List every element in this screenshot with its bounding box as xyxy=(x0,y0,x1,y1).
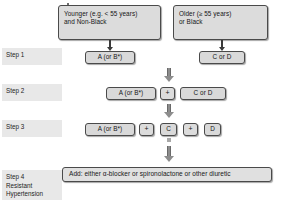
connector-step1-to-step2 xyxy=(163,68,175,82)
node-step3-c: C xyxy=(160,123,177,136)
connector-step3-to-step4 xyxy=(163,146,175,162)
node-step1-c-or-d: C or D xyxy=(199,51,245,64)
connector-step2-to-step3 xyxy=(163,104,175,118)
step-label-step3: Step 3 xyxy=(2,120,62,137)
node-step1-a: A (or B*) xyxy=(85,51,135,64)
node-step2-plus-1: + xyxy=(160,87,175,100)
connector-younger-to-step1 xyxy=(104,40,116,51)
node-step2-c-or-d: C or D xyxy=(180,87,226,100)
connector-older-to-step1 xyxy=(216,40,228,51)
anchor-dot xyxy=(67,3,69,5)
node-step2-a: A (or B*) xyxy=(106,87,156,100)
step-label-step4: Step 4 Resistant Hypertension xyxy=(2,170,62,200)
node-step3-plus-1: + xyxy=(139,123,154,136)
flowchart-canvas: Younger (e.g. < 55 years) and Non-Black … xyxy=(0,0,282,218)
step-label-step1: Step 1 xyxy=(2,48,62,65)
branch-box-younger: Younger (e.g. < 55 years) and Non-Black xyxy=(58,5,161,40)
node-step3-a: A (or B*) xyxy=(85,123,135,136)
node-step3-plus-2: + xyxy=(183,123,198,136)
node-step4-add-therapy: Add: either α-blocker or spironolactone … xyxy=(62,167,272,182)
node-step3-d: D xyxy=(204,123,221,136)
connector-tick xyxy=(167,138,171,142)
branch-box-older: Older (≥ 55 years) or Black xyxy=(173,5,268,40)
step-label-step2: Step 2 xyxy=(2,84,62,101)
